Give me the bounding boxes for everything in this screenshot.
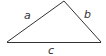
side-c-label: c xyxy=(48,44,54,56)
side-b-label: b xyxy=(84,8,91,21)
triangle-diagram: a b c xyxy=(0,0,106,56)
side-a-label: a xyxy=(24,9,31,22)
side-a-edge xyxy=(7,1,64,42)
side-b-edge xyxy=(64,1,101,42)
